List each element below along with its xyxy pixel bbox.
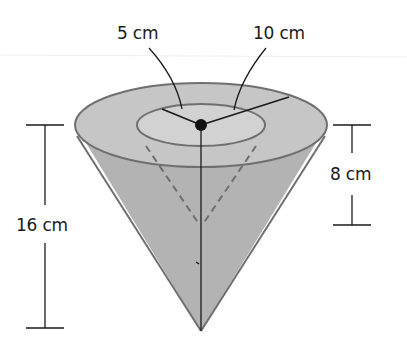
inner-radius-label: 5 cm	[117, 25, 158, 42]
outer-radius-label: 10 cm	[253, 25, 305, 42]
outer-height-label: 16 cm	[16, 217, 68, 234]
inner-height-label: 8 cm	[330, 166, 371, 183]
scan-artifact-line	[0, 55, 407, 57]
center-point	[195, 119, 207, 131]
